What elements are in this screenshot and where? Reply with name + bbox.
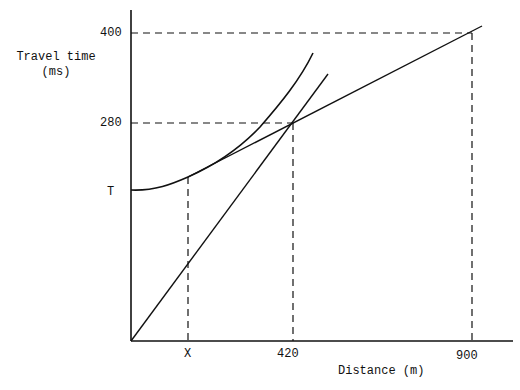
x-tick-X: X [184,347,191,361]
direct-wave-line [131,74,328,341]
x-axis-title: Distance (m) [338,364,424,378]
y-axis-title: Travel time (ms) [6,50,106,80]
y-tick-T: T [107,185,114,199]
y-tick-280: 280 [100,116,122,130]
x-tick-900: 900 [456,349,478,363]
reflection-curve [131,53,313,190]
y-axis-title-line2: (ms) [6,65,106,80]
y-tick-400: 400 [100,26,122,40]
refracted-wave-line [188,26,482,177]
x-tick-420: 420 [277,347,299,361]
y-axis-title-line1: Travel time [6,50,106,65]
